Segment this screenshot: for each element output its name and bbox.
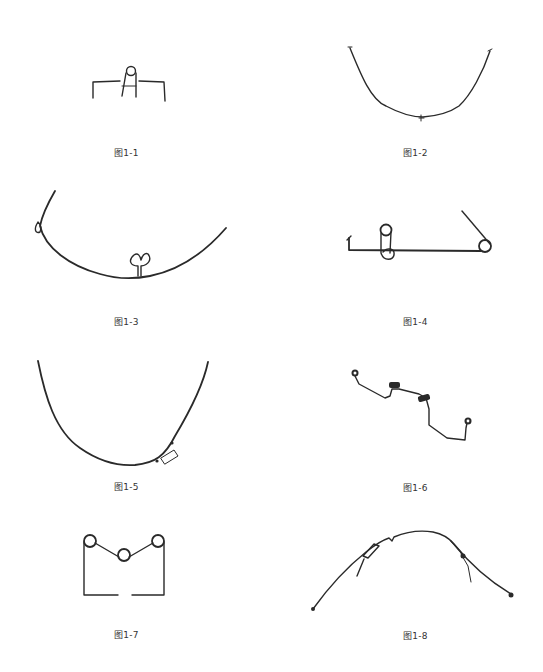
figure-1-8: 图1-8: [271, 504, 542, 672]
m-shaped-wire-image: [0, 504, 271, 672]
figure-1-1: 图1-1: [0, 0, 271, 168]
figure-caption: 图1-7: [114, 628, 139, 641]
figure-caption: 图1-8: [403, 629, 428, 642]
figure-caption: 图1-3: [114, 315, 139, 328]
straight-wire-with-coils-image: [271, 168, 542, 336]
stepped-wire-with-coils-image: [271, 336, 542, 504]
figure-caption: 图1-4: [403, 315, 428, 328]
u-arch-wire-with-sleeve-image: [0, 336, 271, 504]
arched-wire-with-attachments-image: [271, 504, 542, 672]
figure-1-6: 图1-6: [271, 336, 542, 504]
figure-1-7: 图1-7: [0, 504, 271, 672]
figure-1-5: 图1-5: [0, 336, 271, 504]
figure-1-4: 图1-4: [271, 168, 542, 336]
figure-caption: 图1-6: [403, 481, 428, 494]
figure-1-2: 图1-2: [271, 0, 542, 168]
u-arch-wire-image: [271, 0, 542, 168]
arch-wire-with-triangle-loop-image: [0, 168, 271, 336]
figure-caption: 图1-2: [403, 146, 428, 159]
figure-1-3: 图1-3: [0, 168, 271, 336]
wire-loop-appliance-image: [0, 0, 271, 168]
figure-caption: 图1-1: [114, 146, 139, 159]
figure-caption: 图1-5: [114, 480, 139, 493]
